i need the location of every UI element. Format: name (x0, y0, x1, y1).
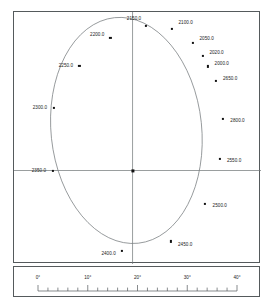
data-point-marker (207, 65, 209, 67)
data-point-label: 2500.0 (213, 203, 227, 208)
data-point-marker (218, 158, 220, 160)
data-point-label: 2250.0 (59, 62, 73, 67)
data-point-label: 2450.0 (178, 241, 192, 246)
data-point-label: 2050.0 (199, 36, 213, 41)
data-point-label: 2200.0 (90, 32, 104, 37)
axis-lines (14, 12, 261, 264)
scale-tick-marks (38, 285, 237, 291)
data-point-label: 2300.0 (33, 105, 47, 110)
data-point-label: 2400.0 (101, 250, 115, 255)
center-point-marker (131, 169, 134, 172)
data-point-marker (170, 240, 172, 242)
data-point-marker (121, 250, 123, 252)
scale-bar-canvas (14, 267, 261, 298)
data-point-label: 2550.0 (227, 157, 241, 162)
data-point-marker (51, 169, 53, 171)
orbit-ellipse-curve (40, 12, 214, 251)
angular-scale-panel: 0°10°20°30°40° (13, 266, 260, 297)
data-point-label: 2100.0 (179, 20, 193, 25)
data-point-marker (145, 25, 147, 27)
data-point-marker (202, 55, 204, 57)
data-point-marker (109, 37, 111, 39)
data-point-marker (222, 118, 224, 120)
data-point-label: 2000.0 (215, 60, 229, 65)
data-point-marker (215, 80, 217, 82)
data-point-label: 2350.0 (32, 167, 46, 172)
data-point-label: 2150.0 (127, 15, 141, 20)
data-point-marker (171, 28, 173, 30)
data-point-marker (204, 202, 206, 204)
plot-canvas (14, 12, 261, 264)
data-point-marker (78, 65, 80, 67)
data-point-marker (192, 42, 194, 44)
data-point-label: 2800.0 (230, 118, 244, 123)
plot-panel: 2150.02100.02050.02020.02000.02650.02800… (13, 11, 260, 263)
data-point-marker (52, 107, 54, 109)
data-point-label: 2020.0 (209, 50, 223, 55)
figure-root: 2150.02100.02050.02020.02000.02650.02800… (0, 0, 273, 308)
data-point-label: 2650.0 (223, 76, 237, 81)
